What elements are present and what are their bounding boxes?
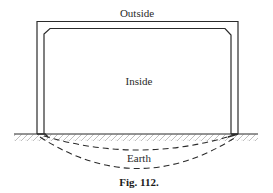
outside-label: Outside bbox=[120, 8, 154, 19]
figure-caption: Fig. 112. bbox=[119, 177, 158, 188]
earth-label: Earth bbox=[127, 153, 151, 164]
inside-label: Inside bbox=[126, 76, 153, 87]
diagram-canvas bbox=[0, 0, 273, 193]
earth-hatching bbox=[14, 135, 258, 142]
